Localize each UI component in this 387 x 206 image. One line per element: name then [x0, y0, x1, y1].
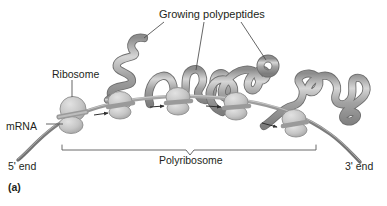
panel-label: (a) [8, 181, 21, 193]
ribosomes [59, 88, 307, 138]
label-polyribosome: Polyribosome [159, 154, 223, 166]
label-three-prime-end: 3' end [345, 160, 373, 172]
leader-line-growing-center [196, 22, 204, 70]
label-growing-polypeptides: Growing polypeptides [159, 8, 265, 20]
figure-polyribosome: Growing polypeptides Ribosome mRNA Polyr… [0, 0, 387, 206]
label-mrna: mRNA [6, 120, 37, 132]
ribosome-5 [282, 110, 307, 138]
ribosome-1 [59, 97, 86, 134]
label-ribosome: Ribosome [52, 68, 99, 80]
direction-arrow-1 [94, 113, 108, 115]
leader-line-growing-left [144, 22, 164, 38]
ribosome-3 [166, 88, 191, 116]
ribosome-2 [108, 92, 133, 120]
polyribosome-illustration [0, 0, 387, 206]
label-five-prime-end: 5' end [8, 160, 36, 172]
leader-line-growing-right [241, 22, 266, 60]
ribosome-4 [224, 93, 249, 121]
polypeptide-chain-4 [264, 74, 366, 126]
